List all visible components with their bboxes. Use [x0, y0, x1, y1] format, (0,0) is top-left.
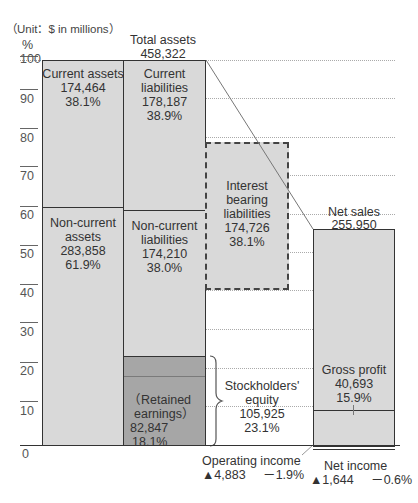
- net-income-values: ▲1,644 －0.6%: [310, 473, 418, 487]
- gross-profit-label: Gross profit 40,693 15.9%: [313, 363, 395, 405]
- gross-profit-pct: 15.9%: [313, 391, 395, 405]
- gross-profit-title: Gross profit: [313, 363, 395, 377]
- gross-profit-divider: [313, 410, 395, 411]
- net-income-label: Net income ▲1,644 －0.6%: [310, 459, 418, 487]
- gross-profit-tick: [353, 405, 354, 415]
- net-sales-bar: [313, 229, 395, 446]
- net-income-title: Net income: [310, 459, 418, 473]
- operating-income-title: Operating income: [202, 454, 312, 468]
- x-axis-baseline: [20, 445, 400, 446]
- net-income-pct: －0.6%: [371, 473, 413, 487]
- operating-income-value: ▲4,883: [202, 468, 246, 482]
- net-income-line: [313, 446, 395, 447]
- operating-income-label: Operating income ▲4,883 －1.9%: [202, 454, 312, 482]
- net-sales-title: Net sales: [313, 205, 395, 219]
- gross-profit-value: 40,693: [313, 377, 395, 391]
- net-sales-label: Net sales 255,950: [313, 205, 395, 232]
- operating-income-pct: －1.9%: [263, 468, 305, 482]
- operating-income-values: ▲4,883 －1.9%: [202, 468, 312, 482]
- net-income-value: ▲1,644: [310, 473, 354, 487]
- operating-income-line: [313, 449, 395, 450]
